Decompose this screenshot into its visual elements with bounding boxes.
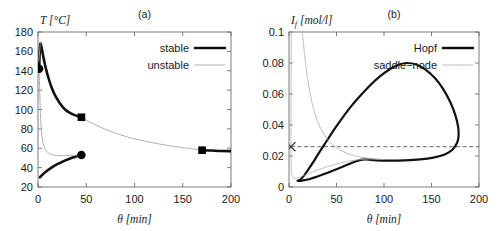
curve-unstable-right-branch — [81, 117, 202, 150]
y-tick-label-a-6: 140 — [15, 65, 33, 77]
y-tick-label-a-8: 180 — [15, 26, 33, 38]
x-tick-label-a-0: 0 — [35, 193, 41, 205]
curve-unstable-middle-branch — [39, 69, 81, 156]
y-tick-label-a-2: 60 — [21, 142, 33, 154]
curve-saddle-node-descending-branch — [302, 32, 384, 160]
y-tick-label-a-7: 160 — [15, 45, 33, 57]
curve-hopf-curve — [297, 63, 458, 181]
y-tick-label-b-5: 0.1 — [269, 26, 284, 38]
marker-fold-point-lower — [77, 151, 85, 159]
x-axis-label-b: θ [min] — [367, 213, 402, 225]
y-tick-label-a-5: 120 — [15, 84, 33, 96]
plot-a: (a)T [°C]θ [min]050100150200204060801001… — [0, 0, 251, 231]
legend-label-b-0: Hopf — [414, 42, 438, 54]
y-tick-label-b-4: 0.08 — [263, 57, 284, 69]
plot-frame-b — [289, 32, 479, 187]
y-axis-label-b: If [mol/l] — [290, 14, 333, 29]
panel-b: (b)If [mol/l]θ [min]05010015020000.020.0… — [251, 0, 503, 231]
panel-title-b: (b) — [388, 8, 401, 20]
x-tick-label-a-1: 50 — [80, 193, 92, 205]
y-tick-label-b-2: 0.04 — [263, 119, 284, 131]
curves-a — [35, 44, 231, 178]
x-tick-label-b-3: 150 — [422, 193, 440, 205]
y-tick-label-a-0: 20 — [21, 181, 33, 193]
y-tick-label-a-4: 100 — [15, 104, 33, 116]
y-tick-label-b-1: 0.02 — [263, 150, 284, 162]
marker-fold-point-upper — [35, 65, 43, 73]
y-tick-label-a-1: 40 — [21, 162, 33, 174]
y-axis-label-a: T [°C] — [40, 14, 70, 26]
plot-b: (b)If [mol/l]θ [min]05010015020000.020.0… — [251, 0, 503, 231]
x-tick-label-a-4: 200 — [222, 193, 240, 205]
x-tick-label-b-4: 200 — [470, 193, 488, 205]
x-tick-label-b-2: 100 — [375, 193, 393, 205]
legend-label-a-0: stable — [160, 42, 189, 54]
y-tick-label-b-3: 0.06 — [263, 88, 284, 100]
curve-stable-lower-branch — [40, 155, 82, 177]
figure-two-panel-bifurcation-diagram: (a)T [°C]θ [min]050100150200204060801001… — [0, 0, 503, 231]
x-axis-label-a: θ [min] — [117, 213, 152, 225]
marker-bifurcation-point-right — [198, 146, 206, 154]
x-tick-label-a-2: 100 — [125, 193, 143, 205]
curves-b — [286, 32, 479, 181]
marker-bifurcation-point-upper — [78, 113, 86, 121]
legend-label-b-1: saddle−node — [374, 59, 437, 71]
y-tick-label-b-0: 0 — [278, 181, 284, 193]
legend-label-a-1: unstable — [147, 59, 189, 71]
x-tick-label-b-0: 0 — [286, 193, 292, 205]
panel-a: (a)T [°C]θ [min]050100150200204060801001… — [0, 0, 251, 231]
x-tick-label-b-1: 50 — [330, 193, 342, 205]
curve-stable-upper-branch — [39, 44, 81, 118]
x-tick-label-a-3: 150 — [174, 193, 192, 205]
curve-stable-right-branch — [202, 150, 231, 151]
y-tick-label-a-3: 80 — [21, 123, 33, 135]
panel-title-a: (a) — [138, 8, 151, 20]
